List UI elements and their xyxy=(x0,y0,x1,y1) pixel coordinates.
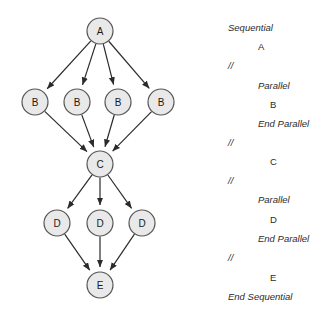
diagram-canvas: ABBBBCDDDE SequentialA//ParallelBEnd Par… xyxy=(0,0,328,309)
pseudocode-line-13: E xyxy=(270,273,276,283)
pseudocode-line-5: End Parallel xyxy=(258,119,309,129)
edge-C-to-D1 xyxy=(68,175,92,209)
pseudocode-line-6: // xyxy=(228,138,233,148)
node-D2[interactable]: D xyxy=(87,210,113,236)
pseudocode-line-9: Parallel xyxy=(258,195,290,205)
node-B3[interactable]: B xyxy=(105,89,131,115)
edge-C-to-D3 xyxy=(108,175,132,208)
node-label-A: A xyxy=(97,26,104,37)
node-label-B4: B xyxy=(158,97,165,108)
node-A[interactable]: A xyxy=(87,18,113,44)
node-label-B1: B xyxy=(32,97,39,108)
node-B4[interactable]: B xyxy=(148,89,174,115)
task-graph: ABBBBCDDDE xyxy=(0,0,200,309)
edge-B2-to-C xyxy=(82,115,94,147)
edge-A-to-B2 xyxy=(83,44,96,85)
pseudocode-line-2: // xyxy=(228,61,233,71)
edge-D3-to-E xyxy=(110,234,134,270)
pseudocode-line-8: // xyxy=(228,176,233,186)
edge-B1-to-C xyxy=(45,111,87,151)
node-label-D1: D xyxy=(53,218,60,229)
node-label-B3: B xyxy=(115,97,122,108)
pseudocode-line-1: A xyxy=(258,42,264,52)
edge-A-to-B3 xyxy=(103,44,113,84)
nodes-layer: ABBBBCDDDE xyxy=(22,18,174,298)
pseudocode-line-4: B xyxy=(270,100,276,110)
node-label-E: E xyxy=(97,280,104,291)
node-B1[interactable]: B xyxy=(22,89,48,115)
pseudocode-panel: SequentialA//ParallelBEnd Parallel//C//P… xyxy=(200,0,328,309)
node-label-B2: B xyxy=(74,97,81,108)
edge-A-to-B4 xyxy=(109,41,149,88)
node-D3[interactable]: D xyxy=(129,210,155,236)
edge-B3-to-C xyxy=(105,115,114,147)
edge-B4-to-C xyxy=(113,112,152,152)
pseudocode-line-14: End Sequential xyxy=(228,292,292,302)
pseudocode-line-10: D xyxy=(270,215,277,225)
node-C[interactable]: C xyxy=(87,151,113,177)
pseudocode-line-7: C xyxy=(270,157,277,167)
pseudocode-line-3: Parallel xyxy=(258,81,290,91)
pseudocode-line-12: // xyxy=(228,253,233,263)
node-label-D3: D xyxy=(138,218,145,229)
edge-A-to-B1 xyxy=(47,41,91,89)
node-label-D2: D xyxy=(96,218,103,229)
pseudocode-line-11: End Parallel xyxy=(258,234,309,244)
node-E[interactable]: E xyxy=(87,272,113,298)
node-label-C: C xyxy=(96,159,103,170)
node-D1[interactable]: D xyxy=(44,210,70,236)
edge-D1-to-E xyxy=(65,234,90,270)
node-B2[interactable]: B xyxy=(64,89,90,115)
pseudocode-line-0: Sequential xyxy=(228,23,273,33)
